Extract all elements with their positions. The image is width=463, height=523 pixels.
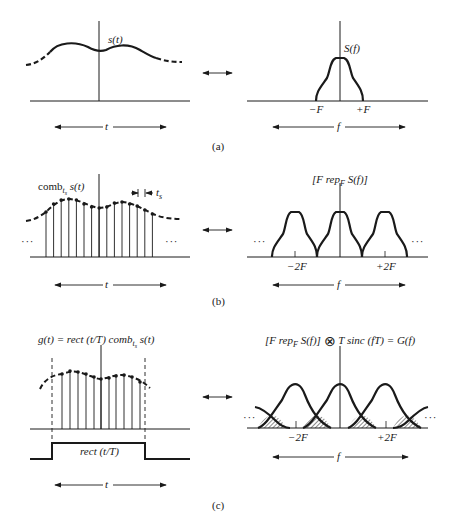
axis-label-f: f	[337, 121, 340, 132]
caption-b: (b)	[212, 296, 225, 307]
sample-spacing-label: ts	[156, 187, 162, 201]
panel-b-frequency-domain	[247, 183, 428, 285]
tick-label-pos-2F: +2F	[376, 261, 396, 272]
signal-label-s-t: s(t)	[108, 34, 123, 45]
ellipsis-left: · · ·	[21, 236, 33, 247]
tick-label-neg-F: −F	[309, 104, 323, 115]
caption-c: (c)	[212, 500, 224, 511]
rect-window-label: rect (t/T)	[80, 446, 119, 457]
tick-label-neg-2F: −2F	[288, 432, 308, 443]
axis-label-f: f	[337, 451, 340, 462]
panel-c-time-domain	[30, 345, 190, 485]
panel-a-frequency-domain	[247, 21, 428, 127]
windowed-signal-label: g(t) = rect (t/T) combts s(t)	[38, 334, 154, 349]
axis-label-f: f	[337, 279, 340, 290]
tick-label-pos-F: +F	[356, 104, 370, 115]
comb-signal-label: combts s(t)	[38, 181, 84, 196]
axis-label-t: t	[105, 479, 108, 490]
tick-label-neg-2F: −2F	[287, 261, 307, 272]
ellipsis-right: · · ·	[165, 236, 177, 247]
axis-label-t: t	[105, 279, 108, 290]
ellipsis-right: · · ·	[424, 412, 436, 423]
spectrum-label-S-f: S(f)	[344, 43, 360, 54]
tick-label-pos-2F: +2F	[377, 432, 397, 443]
ellipsis-left: · · ·	[253, 236, 265, 247]
ellipsis-left: · · ·	[243, 412, 255, 423]
panel-c-frequency-domain	[247, 346, 428, 457]
caption-a: (a)	[212, 141, 224, 152]
ellipsis-right: · · ·	[411, 236, 423, 247]
convolved-spectrum-label: [F repF S(f)] ⊗ T sinc (fT) = G(f)	[265, 335, 415, 349]
axis-label-t: t	[105, 121, 108, 132]
convolution-symbol: ⊗	[324, 334, 336, 349]
replicated-spectrum-label: [F repF S(f)]	[312, 174, 368, 188]
